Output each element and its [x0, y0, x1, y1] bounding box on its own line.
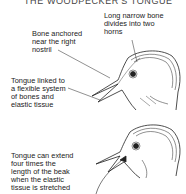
- woodpecker-illustration: [0, 0, 186, 194]
- woodpecker-head-top: [58, 40, 180, 110]
- woodpecker-head-bottom: [96, 125, 180, 194]
